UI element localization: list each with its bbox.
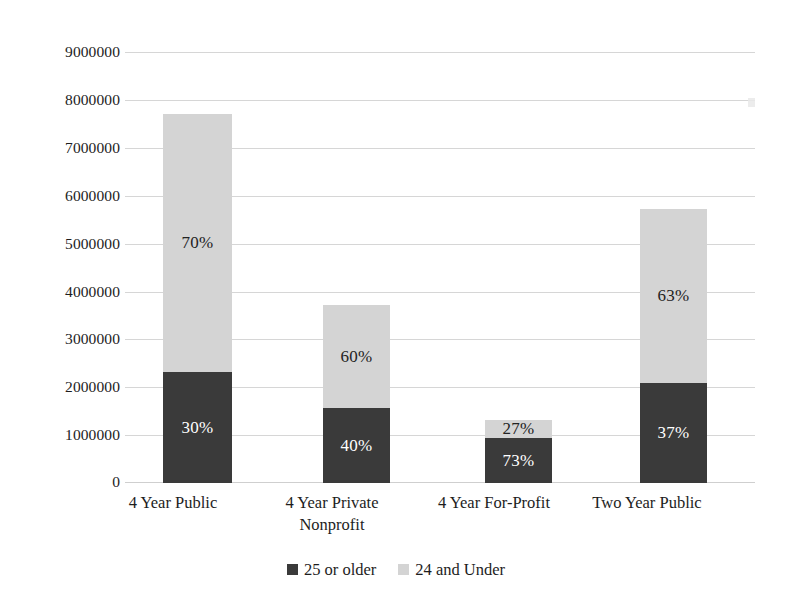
y-tick-label: 6000000 [30, 188, 120, 203]
y-tick-label: 0 [30, 474, 120, 489]
x-tick-label-line1: 4 Year Public [103, 492, 243, 514]
legend-label: 24 and Under [415, 561, 505, 578]
y-tick-label: 2000000 [30, 379, 120, 394]
x-tick-label-two-year-public: Two Year Public [573, 492, 721, 514]
bar-segment-25-or-older: 37% [640, 383, 707, 483]
x-tick-label-4-year-private-nonprofit: 4 Year Private Nonprofit [261, 492, 403, 536]
bar-label-24-and-under: 27% [485, 420, 552, 438]
bar-label-24-and-under: 70% [163, 234, 232, 252]
bar-segment-24-and-under: 70% [163, 114, 232, 372]
y-tick-label: 5000000 [30, 236, 120, 251]
bar-label-24-and-under: 60% [323, 348, 390, 366]
bar-segment-25-or-older: 30% [163, 372, 232, 483]
y-tick-label: 3000000 [30, 331, 120, 346]
x-tick-label-line1: 4 Year For-Profit [420, 492, 568, 514]
gridline-8000000 [125, 100, 755, 101]
x-tick-label-line1: 4 Year Private [261, 492, 403, 514]
y-tick-label: 9000000 [30, 44, 120, 59]
x-tick-label-4-year-public: 4 Year Public [103, 492, 243, 514]
legend-label: 25 or older [304, 561, 376, 578]
bar-4-year-public: 70% 30% [163, 114, 232, 483]
y-tick-label: 4000000 [30, 284, 120, 299]
plot-area: 70% 30% 60% 40% 27% 73% [125, 52, 755, 483]
bar-segment-24-and-under: 27% [485, 420, 552, 438]
legend-item-25-or-older: 25 or older [287, 561, 376, 578]
bar-segment-25-or-older: 40% [323, 408, 390, 483]
stacked-bar-chart: 70% 30% 60% 40% 27% 73% [0, 0, 792, 608]
y-axis: 9000000 8000000 7000000 6000000 5000000 … [25, 0, 120, 608]
chart-legend: 25 or older 24 and Under [0, 561, 792, 578]
bar-label-25-or-older: 37% [640, 424, 707, 442]
gridline-9000000 [125, 52, 755, 53]
x-tick-label-line1: Two Year Public [573, 492, 721, 514]
legend-swatch-icon [287, 564, 298, 575]
y-tick-label: 1000000 [30, 427, 120, 442]
bar-segment-24-and-under: 60% [323, 305, 390, 408]
bar-segment-25-or-older: 73% [485, 438, 552, 483]
x-tick-label-4-year-for-profit: 4 Year For-Profit [420, 492, 568, 514]
legend-swatch-icon [398, 564, 409, 575]
bar-label-24-and-under: 63% [640, 287, 707, 305]
legend-item-24-and-under: 24 and Under [398, 561, 505, 578]
bar-4-year-private-nonprofit: 60% 40% [323, 305, 390, 483]
y-tick-label: 8000000 [30, 92, 120, 107]
bar-4-year-for-profit: 27% 73% [485, 420, 552, 483]
y-tick-label: 7000000 [30, 140, 120, 155]
bar-label-25-or-older: 40% [323, 437, 390, 455]
bar-two-year-public: 63% 37% [640, 209, 707, 483]
bar-label-25-or-older: 73% [485, 452, 552, 470]
x-tick-label-line2: Nonprofit [261, 514, 403, 536]
scan-artifact [748, 98, 755, 107]
bar-label-25-or-older: 30% [163, 419, 232, 437]
bar-segment-24-and-under: 63% [640, 209, 707, 383]
